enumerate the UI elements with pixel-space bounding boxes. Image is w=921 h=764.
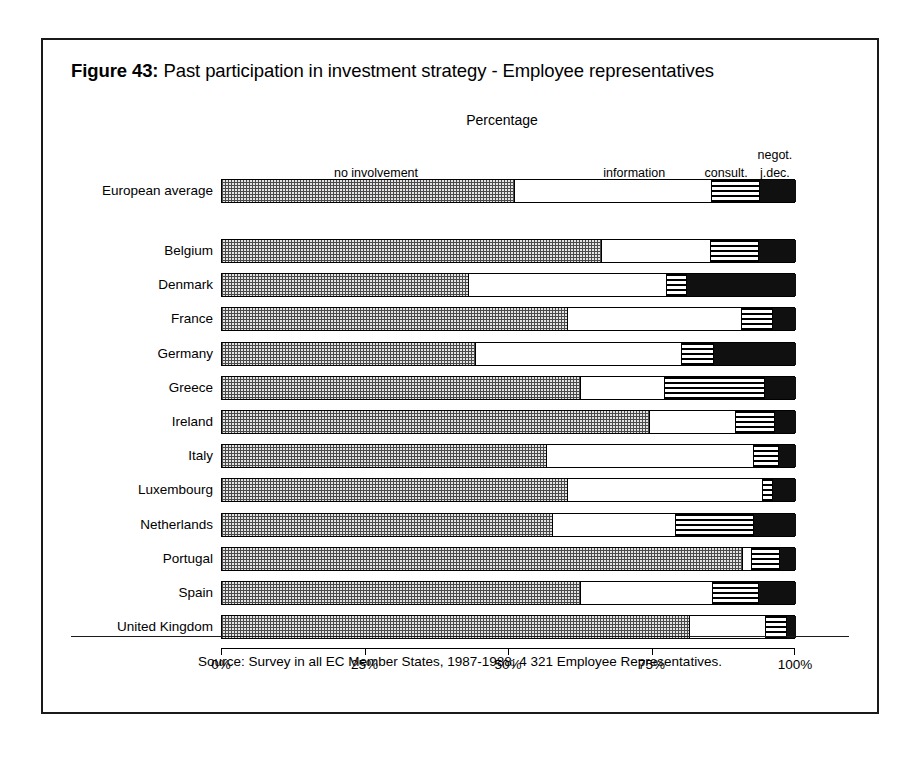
bar-segment-information	[475, 343, 681, 365]
stacked-bar	[221, 444, 795, 468]
bar-segment-information	[580, 377, 664, 399]
bar-segment-no-involvement	[222, 377, 580, 399]
category-label: Belgium	[164, 239, 221, 263]
bar-segment-consultation	[762, 479, 772, 501]
category-label: Germany	[157, 342, 221, 366]
stacked-bar	[221, 307, 795, 331]
stacked-bar	[221, 513, 795, 537]
bar-segment-no-involvement	[222, 445, 546, 467]
stacked-bar	[221, 273, 795, 297]
bar-segment-negotiation-joint-decision	[753, 514, 796, 536]
bar-segment-no-involvement	[222, 343, 475, 365]
bar-segment-negotiation-joint-decision	[774, 411, 796, 433]
bar-segment-no-involvement	[222, 479, 567, 501]
bar-segment-consultation	[664, 377, 764, 399]
category-label: Greece	[169, 376, 221, 400]
bar-segment-consultation	[711, 180, 759, 202]
bar-segment-negotiation-joint-decision	[778, 445, 796, 467]
chart-bar-row: Ireland	[221, 410, 795, 434]
bar-segment-information	[567, 479, 762, 501]
stacked-bar	[221, 410, 795, 434]
bar-segment-information	[742, 548, 751, 570]
bar-segment-no-involvement	[222, 514, 552, 536]
bar-segment-information	[468, 274, 666, 296]
bar-segment-negotiation-joint-decision	[758, 582, 796, 604]
bar-segment-no-involvement	[222, 274, 468, 296]
chart-bar-row: Portugal	[221, 547, 795, 571]
bar-segment-no-involvement	[222, 616, 689, 638]
chart-bar-row: France	[221, 307, 795, 331]
chart-bar-row: Greece	[221, 376, 795, 400]
bar-segment-negotiation-joint-decision	[779, 548, 796, 570]
category-label: Italy	[188, 444, 221, 468]
bar-segment-consultation	[751, 548, 779, 570]
stacked-bar	[221, 581, 795, 605]
stacked-bar	[221, 239, 795, 263]
bar-segment-negotiation-joint-decision	[772, 479, 796, 501]
figure-frame: Figure 43: Past participation in investm…	[41, 38, 879, 714]
bar-segment-consultation	[753, 445, 778, 467]
bar-segment-consultation	[681, 343, 713, 365]
stacked-bar	[221, 376, 795, 400]
bar-segment-no-involvement	[222, 411, 649, 433]
bar-segment-information	[689, 616, 765, 638]
bar-segment-information	[580, 582, 712, 604]
bar-segment-consultation	[710, 240, 758, 262]
bar-segment-no-involvement	[222, 548, 742, 570]
bar-segment-consultation	[741, 308, 773, 330]
chart-bar-row: Italy	[221, 444, 795, 468]
bar-segment-information	[649, 411, 735, 433]
bar-segment-consultation	[765, 616, 786, 638]
category-label: Ireland	[172, 410, 221, 434]
bar-segment-information	[567, 308, 741, 330]
bar-segment-negotiation-joint-decision	[764, 377, 796, 399]
chart-bar-row: Denmark	[221, 273, 795, 297]
bar-segment-information	[601, 240, 710, 262]
category-label: Luxembourg	[138, 478, 221, 502]
stacked-bar	[221, 547, 795, 571]
bar-segment-negotiation-joint-decision	[759, 180, 796, 202]
category-label: Spain	[178, 581, 221, 605]
bar-segment-no-involvement	[222, 308, 567, 330]
category-label: European average	[102, 179, 221, 203]
bar-segment-no-involvement	[222, 582, 580, 604]
category-label: Denmark	[158, 273, 221, 297]
bar-segment-consultation	[735, 411, 774, 433]
chart-bar-row: Belgium	[221, 239, 795, 263]
bar-segment-negotiation-joint-decision	[772, 308, 796, 330]
chart-bar-row: European average	[221, 179, 795, 203]
bar-segment-no-involvement	[222, 180, 514, 202]
stacked-bar	[221, 478, 795, 502]
stacked-bar	[221, 179, 795, 203]
bar-segment-negotiation-joint-decision	[786, 616, 796, 638]
bar-segment-consultation	[666, 274, 686, 296]
source-divider	[71, 636, 849, 637]
category-label: Portugal	[163, 547, 221, 571]
bar-segment-consultation	[712, 582, 758, 604]
bar-segment-negotiation-joint-decision	[713, 343, 796, 365]
bar-segment-no-involvement	[222, 240, 601, 262]
source-note: Source: Survey in all EC Member States, …	[43, 654, 877, 669]
bar-segment-negotiation-joint-decision	[758, 240, 796, 262]
bar-segment-negotiation-joint-decision	[686, 274, 796, 296]
category-label: France	[171, 307, 221, 331]
chart-bar-row: Germany	[221, 342, 795, 366]
bar-segment-consultation	[675, 514, 753, 536]
category-label: Netherlands	[140, 513, 221, 537]
chart-bar-row: Spain	[221, 581, 795, 605]
bar-segment-information	[514, 180, 711, 202]
chart-plot-area: European averageBelgiumDenmarkFranceGerm…	[43, 40, 877, 712]
stacked-bar	[221, 342, 795, 366]
bar-segment-information	[552, 514, 675, 536]
chart-bar-row: Luxembourg	[221, 478, 795, 502]
bar-segment-information	[546, 445, 753, 467]
chart-bar-row: Netherlands	[221, 513, 795, 537]
